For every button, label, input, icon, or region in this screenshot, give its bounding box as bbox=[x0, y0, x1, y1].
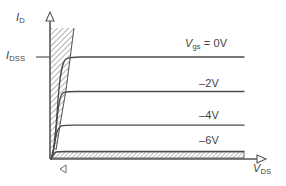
curve-label-value: –2V bbox=[199, 77, 219, 89]
y-axis-label: ID bbox=[16, 12, 25, 23]
cutoff-region-hatch bbox=[52, 152, 244, 158]
curve-label-vgs-0v: Vgs = 0V bbox=[185, 38, 227, 49]
curve-label-value: = 0V bbox=[201, 37, 228, 49]
curve-label-value: –4V bbox=[199, 109, 219, 121]
y-axis-label-subscript: D bbox=[19, 16, 25, 25]
idss-tick-label-subscript: DSS bbox=[9, 54, 25, 63]
x-axis-label: VDS bbox=[253, 163, 271, 174]
origin-marker-icon bbox=[60, 165, 66, 173]
jfet-drain-characteristics-figure: ID IDSS VDS Vgs = 0V –2V –4V –6V bbox=[0, 0, 286, 186]
curve-label-vgs-minus4v: –4V bbox=[199, 110, 219, 121]
curve-label-subscript: gs bbox=[192, 42, 200, 51]
x-axis-label-subscript: DS bbox=[260, 167, 271, 176]
curve-label-vgs-minus6v: –6V bbox=[199, 135, 219, 146]
curve-label-value: –6V bbox=[199, 134, 219, 146]
plot-canvas bbox=[0, 0, 286, 186]
y-axis-arrow-icon bbox=[46, 12, 54, 21]
curve-label-vgs-minus2v: –2V bbox=[199, 78, 219, 89]
idss-tick-label: IDSS bbox=[6, 50, 25, 61]
